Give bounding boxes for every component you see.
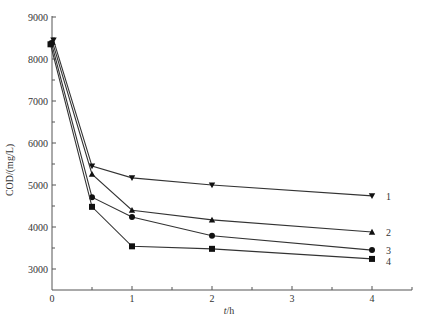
x-tick-label: 0 xyxy=(50,293,55,304)
square-marker-icon xyxy=(48,41,54,47)
square-marker-icon xyxy=(89,204,95,210)
x-tick-label: 1 xyxy=(130,293,135,304)
y-tick-label: 6000 xyxy=(28,138,48,149)
x-tick-label: 3 xyxy=(290,293,295,304)
square-marker-icon xyxy=(209,246,215,252)
series-line xyxy=(53,42,373,232)
x-tick-label: 2 xyxy=(210,293,215,304)
y-tick-label: 3000 xyxy=(28,264,48,275)
circle-marker-icon xyxy=(209,233,215,239)
triangle-up-marker-icon xyxy=(89,171,95,177)
circle-marker-icon xyxy=(129,214,135,220)
series-2: 2 xyxy=(49,39,391,238)
series-line xyxy=(51,44,373,259)
y-tick-label: 7000 xyxy=(28,96,48,107)
series-label: 3 xyxy=(386,245,391,256)
chart-series: 1234 xyxy=(48,38,392,267)
x-tick-label: 4 xyxy=(370,293,375,304)
y-axis-label: COD/(mg/L) xyxy=(4,144,16,196)
square-marker-icon xyxy=(369,256,375,262)
y-tick-label: 5000 xyxy=(28,180,48,191)
y-tick-label: 9000 xyxy=(28,12,48,23)
series-3: 3 xyxy=(49,40,392,256)
y-tick-label: 8000 xyxy=(28,54,48,65)
x-axis-label: t/h xyxy=(224,305,235,316)
circle-marker-icon xyxy=(369,247,375,253)
series-label: 1 xyxy=(386,191,391,202)
chart-axes: 300040005000600070008000900001234 xyxy=(28,12,412,305)
series-label: 2 xyxy=(386,227,391,238)
square-marker-icon xyxy=(129,243,135,249)
series-1: 1 xyxy=(50,38,391,202)
line-chart: 300040005000600070008000900001234 1234 C… xyxy=(0,0,428,327)
series-line xyxy=(54,40,373,196)
series-4: 4 xyxy=(48,41,392,267)
series-label: 4 xyxy=(386,256,391,267)
x-axis-label-unit: /h xyxy=(227,305,235,316)
y-tick-label: 4000 xyxy=(28,222,48,233)
